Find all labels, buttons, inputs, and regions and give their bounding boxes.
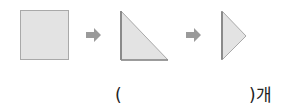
square-paper [20,10,70,61]
small-folded-triangle [219,10,249,62]
folded-triangle [118,9,170,62]
arrow-right-icon [186,28,202,42]
arrow-right-icon [86,28,102,42]
open-paren: ( [115,85,122,105]
unit-label: )개 [249,85,272,105]
answer-blank[interactable] [128,84,248,106]
